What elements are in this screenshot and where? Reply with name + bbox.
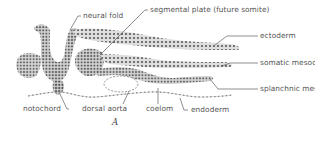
- splanchnic-mesoderm: [96, 67, 213, 84]
- somatic-mesoderm: [100, 54, 232, 68]
- figure-caption: A: [112, 118, 118, 127]
- embryo-diagram: neural fold segmental plate (future somi…: [0, 0, 315, 146]
- leader-endoderm: [180, 98, 188, 110]
- leader-dorsal-aorta: [123, 91, 129, 104]
- label-endoderm: endoderm: [191, 106, 229, 113]
- neural-tube: [34, 24, 78, 82]
- label-dorsal-aorta: dorsal aorta: [82, 105, 127, 112]
- label-splanchnic-mesoderm: splanchnic mesoderm: [260, 85, 315, 92]
- dorsal-aorta: [104, 76, 138, 92]
- leader-neural-fold: [70, 16, 81, 30]
- label-neural-fold: neural fold: [83, 12, 123, 19]
- ectoderm: [72, 28, 240, 50]
- leader-notochord: [60, 94, 69, 109]
- label-segmental-plate: segmental plate (future somite): [150, 6, 269, 13]
- label-ectoderm: ectoderm: [260, 32, 296, 39]
- label-somatic-mesoderm: somatic mesoderm: [260, 59, 315, 66]
- label-notochord: notochord: [23, 105, 61, 112]
- label-coelom: coelom: [146, 105, 173, 112]
- left-segmental-plate: [16, 53, 41, 78]
- embryo-cross-section-illustration: [0, 0, 315, 146]
- leader-splanchnic-mesoderm: [210, 79, 258, 89]
